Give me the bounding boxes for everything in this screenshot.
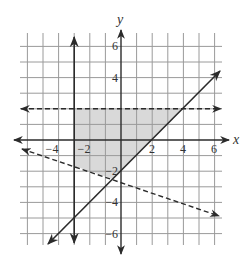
y-tick-label: 4 <box>112 71 118 85</box>
x-tick-label: −2 <box>78 142 91 156</box>
y-tick-label: −4 <box>105 195 118 209</box>
x-axis-label: x <box>232 132 240 147</box>
x-tick-label: 2 <box>149 142 155 156</box>
y-tick-label: −2 <box>105 164 118 178</box>
x-tick-label: 4 <box>180 142 186 156</box>
x-tick-label: −4 <box>46 142 59 156</box>
x-tick-label: 6 <box>211 142 217 156</box>
y-tick-label: −6 <box>105 227 118 241</box>
y-axis-label: y <box>115 12 124 27</box>
inequality-graph: y x −4 −2 2 4 6 6 4 −2 −4 −6 <box>0 0 246 264</box>
y-tick-label: 6 <box>112 39 118 53</box>
